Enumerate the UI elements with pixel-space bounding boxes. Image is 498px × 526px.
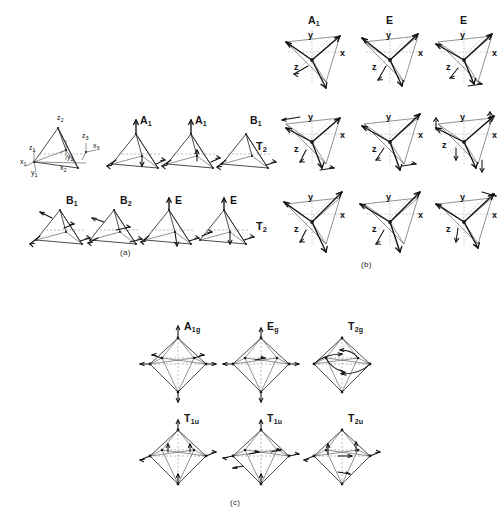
mode-diagram-svg [86, 196, 148, 254]
svg-text:x: x [492, 130, 497, 140]
svg-text:y: y [308, 192, 313, 202]
svg-text:x: x [492, 48, 497, 58]
svg-text:y: y [308, 30, 313, 40]
svg-text:x: x [418, 48, 423, 58]
tetrahedron-svg: y x z [430, 22, 498, 98]
mode-label-b2: B2 [120, 194, 132, 206]
svg-text:y: y [460, 192, 465, 202]
svg-text:z: z [294, 62, 299, 72]
panel-a: z2 z3 x3 z1 x1 y1 y2 x2 A1 [18, 108, 258, 268]
axis-tag-y2: y2 [67, 153, 74, 160]
mode-label-a1: A1 [140, 114, 152, 126]
panel-b-mode-a1: A1 y x z [278, 22, 354, 98]
panel-c: A1g Eg [130, 312, 380, 512]
svg-text:x: x [418, 130, 423, 140]
octahedron-svg [308, 324, 382, 404]
panel-c-mode-eg: Eg [227, 324, 301, 404]
panel-a-mode-a1-first: A1 [108, 116, 170, 178]
panel-c-mode-a1g: A1g [144, 324, 218, 404]
tetrahedron-svg: y x z [278, 22, 354, 98]
svg-text:z: z [446, 224, 451, 234]
panel-b-mode-t2-r2c3: y x z [430, 104, 498, 180]
mode-label-e: E [460, 14, 467, 26]
svg-text:z: z [372, 62, 377, 72]
tetrahedron-svg: y x z [356, 104, 432, 180]
mode-label-e: E [175, 194, 182, 206]
tetrahedron-svg: y x z [430, 184, 498, 260]
axis-tag-x3: x3 [93, 142, 100, 149]
mode-label-b1: B1 [66, 194, 78, 206]
panel-b-caption: (b) [361, 260, 372, 269]
panel-c-mode-t2g: T2g [308, 324, 382, 404]
svg-text:z: z [446, 62, 451, 72]
svg-text:y: y [308, 112, 313, 122]
tetrahedron-svg: y x z [356, 184, 432, 260]
panel-c-mode-t1u-second: T1u [227, 416, 301, 496]
vibrational-modes-figure: z2 z3 x3 z1 x1 y1 y2 x2 A1 [0, 0, 498, 526]
panel-a-mode-e-first: E [141, 196, 203, 254]
axis-tag-z1: z1 [29, 144, 36, 151]
panel-b-mode-e-first: E y x z [356, 22, 432, 98]
svg-text:y: y [460, 112, 465, 122]
octahedron-svg [144, 416, 218, 496]
mode-diagram-svg [108, 116, 170, 178]
svg-text:x: x [340, 210, 345, 220]
panel-c-mode-t1u-first: T1u [144, 416, 218, 496]
mode-label-a1: A1 [195, 114, 207, 126]
octahedron-svg [227, 324, 301, 404]
svg-text:x: x [340, 130, 345, 140]
mode-label-eg: Eg [267, 320, 279, 332]
panel-b-mode-t2-r2c2: y x z [356, 104, 432, 180]
panel-c-mode-t2u: T2u [308, 416, 382, 496]
mode-diagram-svg [141, 196, 203, 254]
svg-text:z: z [372, 224, 377, 234]
mode-label-a1: A1 [308, 14, 320, 26]
tetrahedron-svg: y x z [278, 104, 354, 180]
svg-text:z: z [294, 224, 299, 234]
octahedron-svg [308, 416, 382, 496]
panel-a-reference-axes-diagram: z2 z3 x3 z1 x1 y1 y2 x2 [26, 116, 104, 182]
mode-diagram-svg [163, 116, 225, 178]
tetrahedron-svg: y x z [430, 104, 498, 180]
panel-a-mode-e-second: E [196, 196, 258, 254]
mode-label-a1g: A1g [184, 320, 200, 332]
panel-b-mode-t2-r2c1: y x z [278, 104, 354, 180]
panel-a-caption: (a) [120, 248, 131, 257]
panel-b-mode-t2-r3c3: y x z [430, 184, 498, 260]
panel-b-mode-t2-r3c1: y x z [278, 184, 354, 260]
mode-label-t1u: T1u [184, 412, 199, 424]
mode-label-t2u: T2u [348, 412, 363, 424]
svg-text:x: x [418, 210, 423, 220]
panel-a-mode-b1-second: B1 [32, 196, 94, 254]
axis-tag-x2: x2 [60, 164, 67, 171]
svg-text:y: y [460, 30, 465, 40]
svg-text:z: z [372, 144, 377, 154]
row-label-t2-first: T2 [256, 140, 267, 152]
octahedron-svg [144, 324, 218, 404]
svg-text:y: y [386, 192, 391, 202]
mode-label-t1u: T1u [267, 412, 282, 424]
axis-tag-z2: z2 [57, 114, 64, 121]
axis-tag-z3: z3 [82, 132, 89, 139]
mode-label-e: E [386, 14, 393, 26]
panel-b: T2 T2 A1 y x z E [258, 12, 498, 272]
panel-b-mode-e-second: E y x z [430, 22, 498, 98]
mode-label-t2g: T2g [348, 320, 363, 332]
panel-a-mode-a1-second: A1 [163, 116, 225, 178]
mode-label-e: E [230, 194, 237, 206]
panel-b-mode-t2-r3c2: y x z [356, 184, 432, 260]
axis-tag-y1: y1 [31, 169, 38, 176]
svg-text:x: x [492, 210, 497, 220]
octahedron-svg [227, 416, 301, 496]
svg-text:y: y [386, 30, 391, 40]
panel-c-caption: (c) [230, 498, 240, 507]
tetrahedron-svg: y x z [278, 184, 354, 260]
axis-tag-x1: x1 [20, 158, 27, 165]
mode-diagram-svg [32, 196, 94, 254]
svg-text:y: y [386, 112, 391, 122]
tetrahedron-svg: y x z [356, 22, 432, 98]
row-label-t2-second: T2 [256, 220, 267, 232]
mode-diagram-svg [196, 196, 258, 254]
svg-text:x: x [340, 48, 345, 58]
panel-a-mode-b2: B2 [86, 196, 148, 254]
